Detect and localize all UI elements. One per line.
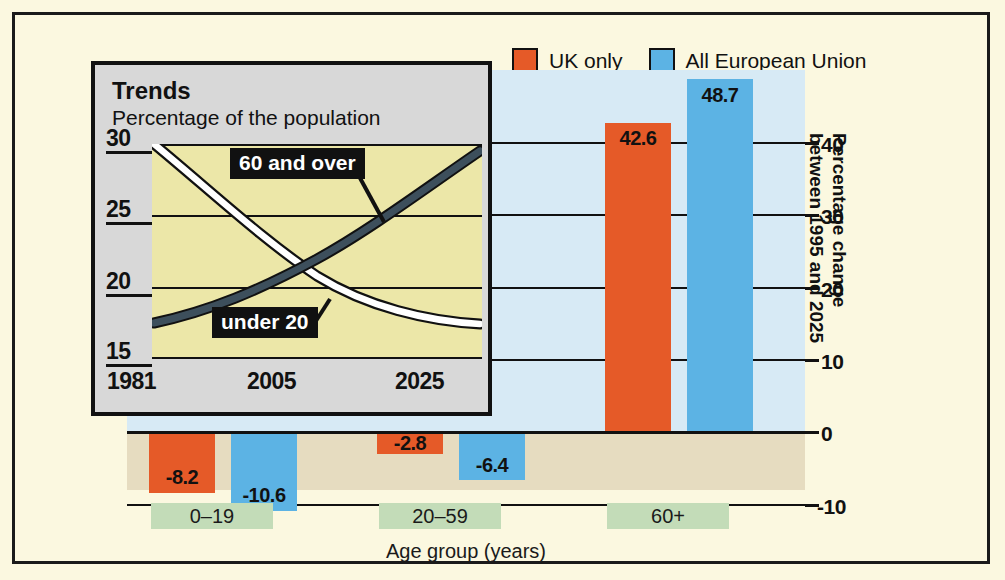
inset-ytick-rule-15 bbox=[106, 364, 152, 367]
bar-value-uk-0-19: -8.2 bbox=[143, 466, 221, 489]
inset-xtick-label-1981: 1981 bbox=[107, 368, 156, 395]
bar-uk-60plus[interactable] bbox=[605, 123, 671, 431]
bar-value-eu-60plus: 48.7 bbox=[681, 84, 759, 107]
chart-frame: UK only All European Union bbox=[12, 12, 990, 564]
callout-60-and-over: 60 and over bbox=[230, 148, 365, 179]
bar-value-eu-20-59: -6.4 bbox=[453, 454, 531, 477]
callout-under-20: under 20 bbox=[212, 307, 318, 338]
inset-trends-chart: Trends Percentage of the population bbox=[91, 61, 492, 416]
inset-subtitle: Percentage of the population bbox=[112, 106, 381, 130]
category-band-0-19: 0–19 bbox=[151, 503, 273, 529]
category-label-20-59: 20–59 bbox=[412, 505, 468, 528]
inset-plot-area: 60 and over under 20 bbox=[152, 144, 482, 359]
y-axis-title-line1: Percentage change bbox=[829, 133, 850, 307]
inset-ytick-rule-25 bbox=[106, 222, 152, 225]
ytick-label-minus-10: -10 bbox=[817, 495, 846, 519]
bar-value-uk-20-59: -2.8 bbox=[371, 432, 449, 455]
x-axis-title: Age group (years) bbox=[127, 540, 805, 563]
category-label-0-19: 0–19 bbox=[190, 505, 235, 528]
inset-xtick-label-2025: 2025 bbox=[395, 368, 444, 395]
callout-leader-60-over bbox=[360, 178, 384, 222]
inset-ytick-label-30: 30 bbox=[106, 125, 131, 152]
inset-ytick-rule-20 bbox=[106, 294, 152, 297]
category-band-60plus: 60+ bbox=[607, 503, 729, 529]
category-label-60plus: 60+ bbox=[651, 505, 685, 528]
category-band-20-59: 20–59 bbox=[379, 503, 501, 529]
inset-xtick-label-2005: 2005 bbox=[247, 368, 296, 395]
inset-ytick-rule-30 bbox=[106, 151, 152, 154]
inset-ytick-label-20: 20 bbox=[106, 268, 131, 295]
inset-ytick-label-15: 15 bbox=[106, 338, 131, 365]
y-axis-title: Percentage change between 1995 and 2025 bbox=[805, 133, 851, 473]
inset-ytick-label-25: 25 bbox=[106, 196, 131, 223]
y-axis-title-line2: between 1995 and 2025 bbox=[806, 133, 827, 343]
bar-eu-60plus[interactable] bbox=[687, 79, 753, 431]
inset-title: Trends bbox=[112, 77, 191, 105]
figure-canvas: UK only All European Union bbox=[0, 0, 1005, 580]
bar-value-uk-60plus: 42.6 bbox=[599, 127, 677, 150]
